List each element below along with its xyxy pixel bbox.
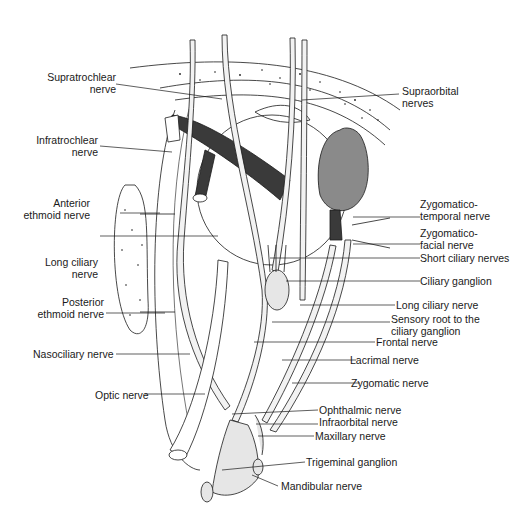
label-mandibular: Mandibular nerve <box>281 480 362 492</box>
label-trigeminal-ganglion: Trigeminal ganglion <box>306 456 397 468</box>
label-infratrochlear: Infratrochlearnerve <box>36 134 98 158</box>
label-zygomaticofacial: Zygomatico-facial nerve <box>420 227 478 251</box>
label-anterior-ethmoid: Anteriorethmoid nerve <box>23 197 90 221</box>
ethmoid-air-cells <box>114 185 148 334</box>
label-zygomatic: Zygomatic nerve <box>351 377 429 389</box>
label-maxillary: Maxillary nerve <box>315 430 386 442</box>
label-long-ciliary-left: Long ciliarynerve <box>45 256 98 280</box>
label-zygomaticotemporal: Zygomatico-temporal nerve <box>420 198 490 222</box>
label-nasociliary: Nasociliary nerve <box>33 348 114 360</box>
label-ciliary-ganglion: Ciliary ganglion <box>420 275 492 287</box>
label-lacrimal: Lacrimal nerve <box>350 354 419 366</box>
label-supratrochlear: Supratrochlearnerve <box>47 71 116 95</box>
trochlea <box>165 115 180 142</box>
label-frontal: Frontal nerve <box>376 336 438 348</box>
label-supraorbital: Supraorbitalnerves <box>402 85 459 109</box>
label-long-ciliary-right: Long ciliary nerve <box>396 299 478 311</box>
label-short-ciliary: Short ciliary nerves <box>420 252 509 264</box>
ciliary-ganglion-shape <box>265 270 289 310</box>
trigeminal-ganglion-shape <box>212 420 259 495</box>
label-sensory-root: Sensory root to theciliary ganglion <box>391 313 480 337</box>
label-infraorbital: Infraorbital nerve <box>319 416 398 428</box>
label-optic: Optic nerve <box>95 389 149 401</box>
label-ophthalmic: Ophthalmic nerve <box>319 404 401 416</box>
label-posterior-ethmoid: Posteriorethmoid nerve <box>37 296 104 320</box>
